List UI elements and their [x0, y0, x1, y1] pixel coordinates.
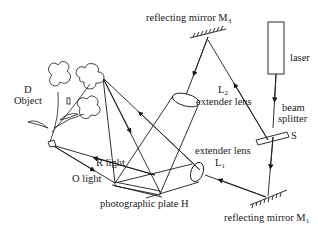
mirror-m3-label: reflecting mirror M3 [146, 12, 231, 27]
photographic-plate-h [115, 182, 160, 195]
object-label: Object [14, 95, 42, 107]
laser-label: laser [290, 52, 310, 64]
laser-box [268, 22, 284, 74]
lens-l1-name: L1 [215, 157, 225, 172]
lens-l2-desc: extender lens [196, 96, 252, 108]
splitter-s-label: S [291, 130, 297, 142]
beam-splitter-label-2: splitter [278, 113, 307, 125]
r-light-label: R light [96, 157, 125, 169]
plate-label: photographic plate H [100, 198, 189, 210]
o-light-label: O light [72, 173, 101, 185]
mirror-m1-label: reflecting mirror M1 [224, 212, 309, 227]
mirror-m3 [190, 26, 226, 38]
lens-l1-desc: extender lens [195, 145, 251, 157]
